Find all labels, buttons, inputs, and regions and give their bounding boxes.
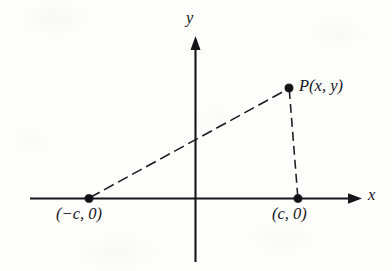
figure-root: y x P(x, y) (−c, 0) (c, 0) [0,0,392,271]
x-axis-arrowhead [348,193,362,203]
segment-left-focus-to-p [90,89,288,198]
diagram-canvas [0,0,392,271]
point-right-focus-label: (c, 0) [272,206,307,223]
x-axis-label: x [368,187,375,204]
segment-p-to-right-focus [289,90,298,197]
point-p-dot [285,84,293,92]
point-left-focus-label: (−c, 0) [56,206,102,223]
y-axis-arrowhead [191,36,201,50]
point-right-focus-dot [294,194,302,202]
y-axis-label: y [186,10,193,27]
point-p-label: P(x, y) [299,78,343,95]
point-left-focus-dot [85,194,93,202]
